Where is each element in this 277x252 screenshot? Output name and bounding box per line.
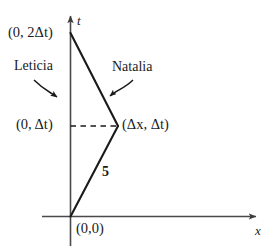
t-axis-label: t (77, 14, 81, 27)
spacetime-diagram: (0, 2Δt) (0, Δt) (Δx, Δt) (0,0) Leticia … (0, 0, 277, 252)
annotation-leticia: Leticia (14, 59, 53, 73)
x-axis-label: x (255, 224, 261, 237)
natalia-outbound-worldline (71, 126, 119, 217)
point-label-vertex: (Δx, Δt) (122, 117, 169, 132)
point-label-origin: (0,0) (76, 221, 104, 236)
natalia-pointer-arrow (110, 80, 133, 96)
leticia-pointer-arrow (34, 80, 57, 97)
annotation-natalia: Natalia (112, 60, 152, 74)
point-label-top: (0, 2Δt) (8, 25, 53, 40)
point-label-middle-left: (0, Δt) (16, 117, 53, 132)
natalia-return-worldline (71, 33, 119, 126)
annotation-segment-number: 5 (102, 165, 109, 179)
